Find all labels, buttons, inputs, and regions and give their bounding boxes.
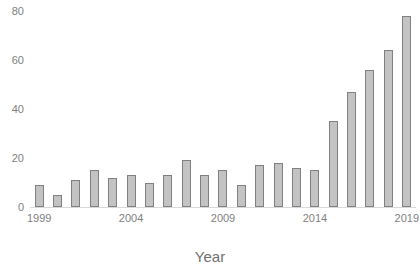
x-tick-label-2004: 2004 xyxy=(119,212,143,225)
bar-slot xyxy=(324,11,342,207)
bar-2016 xyxy=(347,92,356,207)
bar-2014 xyxy=(310,170,319,207)
bar-2015 xyxy=(329,121,338,207)
bar-slot xyxy=(30,11,48,207)
bar-2005 xyxy=(145,183,154,208)
bar-2004 xyxy=(127,175,136,207)
x-axis-ticks: 19992004200920142019 xyxy=(30,212,416,228)
bar-2012 xyxy=(274,163,283,207)
bar-chart: 80 60 40 20 0 19992004200920142019 Year xyxy=(0,0,420,277)
bar-2002 xyxy=(90,170,99,207)
bar-2000 xyxy=(53,195,62,207)
bar-slot xyxy=(195,11,213,207)
bar-2008 xyxy=(200,175,209,207)
y-tick-label-40: 40 xyxy=(2,104,24,115)
x-tick-label-2014: 2014 xyxy=(303,212,327,225)
y-tick-label-60: 60 xyxy=(2,55,24,66)
bar-2009 xyxy=(218,170,227,207)
bar-slot xyxy=(122,11,140,207)
bar-slot xyxy=(287,11,305,207)
bar-slot xyxy=(232,11,250,207)
bar-2003 xyxy=(108,178,117,207)
x-tick-label-1999: 1999 xyxy=(27,212,51,225)
bar-2013 xyxy=(292,168,301,207)
bar-slot xyxy=(214,11,232,207)
bar-2010 xyxy=(237,185,246,207)
plot-area xyxy=(30,11,416,207)
bar-slot xyxy=(306,11,324,207)
bar-2017 xyxy=(365,70,374,207)
bar-slot xyxy=(140,11,158,207)
bar-series xyxy=(30,11,416,207)
bar-2001 xyxy=(71,180,80,207)
bar-2006 xyxy=(163,175,172,207)
bar-2019 xyxy=(402,16,411,207)
bar-slot xyxy=(177,11,195,207)
x-axis-title: Year xyxy=(0,248,420,265)
bar-2007 xyxy=(182,160,191,207)
y-tick-label-20: 20 xyxy=(2,153,24,164)
y-tick-label-0: 0 xyxy=(2,202,24,213)
bar-slot xyxy=(159,11,177,207)
bar-slot xyxy=(342,11,360,207)
x-tick-label-2019: 2019 xyxy=(395,212,419,225)
bar-1999 xyxy=(35,185,44,207)
y-tick-label-80: 80 xyxy=(2,6,24,17)
bar-slot xyxy=(67,11,85,207)
bar-2011 xyxy=(255,165,264,207)
bar-slot xyxy=(48,11,66,207)
bar-slot xyxy=(361,11,379,207)
bar-slot xyxy=(104,11,122,207)
bar-slot xyxy=(85,11,103,207)
bar-slot xyxy=(269,11,287,207)
bar-2018 xyxy=(384,50,393,207)
x-tick-label-2009: 2009 xyxy=(211,212,235,225)
bar-slot xyxy=(379,11,397,207)
bar-slot xyxy=(251,11,269,207)
bar-slot xyxy=(398,11,416,207)
x-axis-line xyxy=(30,207,416,208)
